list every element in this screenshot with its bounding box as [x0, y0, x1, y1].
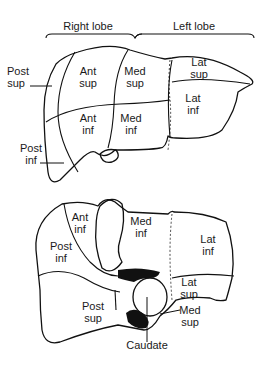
liver-outline-top — [44, 46, 253, 181]
post-inf-label-2: inf — [25, 154, 38, 166]
lat-inf-label-2-bottom: inf — [202, 245, 215, 257]
right-lobe-header: Right lobe — [63, 20, 113, 32]
liver-segments-diagram: Right lobe Left lobe Post sup Ant sup Me… — [0, 0, 270, 371]
porta-hepatis — [118, 268, 160, 282]
bottom-view: Ant inf Med inf Lat inf Post inf Lat sup… — [36, 199, 234, 351]
caudate-label: Caudate — [126, 339, 168, 351]
post-inf-label-1: Post — [20, 142, 42, 154]
med-inf-label-1-bottom: Med — [130, 215, 151, 227]
lat-sup-label-2-bottom: sup — [180, 288, 198, 300]
post-sup-label-1: Post — [7, 65, 29, 77]
med-inf-label-2: inf — [125, 124, 138, 136]
ant-inf-label-2-bottom: inf — [74, 223, 87, 235]
med-inf-label-2-bottom: inf — [135, 227, 148, 239]
med-sup-label-1: Med — [124, 65, 145, 77]
ivc-dark-region — [126, 310, 149, 329]
top-view: Right lobe Left lobe Post sup Ant sup Me… — [7, 20, 254, 182]
post-sup-label-2-bottom: sup — [84, 312, 102, 324]
post-inf-label-1-bottom: Post — [50, 240, 72, 252]
post-sup-label-2: sup — [7, 77, 25, 89]
ant-inf-label-2: inf — [82, 124, 95, 136]
left-lat-divide-line — [172, 79, 250, 84]
post-sup-caudate-line — [115, 290, 116, 310]
ant-sup-label-2: sup — [79, 77, 97, 89]
med-sup-label-2-bottom: sup — [181, 316, 199, 328]
post-inf-label-2-bottom: inf — [55, 252, 68, 264]
lat-sup-label-2: sup — [190, 68, 208, 80]
gallbladder — [96, 199, 124, 270]
horizontal-divide-line — [46, 100, 170, 122]
left-lobe-header: Left lobe — [173, 20, 215, 32]
med-sup-label-1-bottom: Med — [179, 304, 200, 316]
med-sup-leader — [160, 310, 180, 314]
post-sup-label-1-bottom: Post — [82, 300, 104, 312]
ligamentum-line — [170, 214, 172, 300]
lat-inf-label-1-bottom: Lat — [200, 233, 215, 245]
left-lobe-brace — [135, 34, 254, 38]
caudate-lobe — [133, 278, 167, 316]
lat-inf-label-2: inf — [187, 104, 200, 116]
lat-inf-label-1: Lat — [185, 92, 200, 104]
lat-sup-label-1-bottom: Lat — [181, 276, 196, 288]
lat-sup-label-1: Lat — [191, 56, 206, 68]
ant-inf-label-1-bottom: Ant — [72, 211, 89, 223]
ant-sup-label-1: Ant — [80, 65, 97, 77]
right-lobe-brace — [46, 34, 142, 38]
med-sup-label-2: sup — [126, 77, 144, 89]
med-inf-label-1: Med — [120, 112, 141, 124]
ant-inf-label-1: Ant — [80, 112, 97, 124]
